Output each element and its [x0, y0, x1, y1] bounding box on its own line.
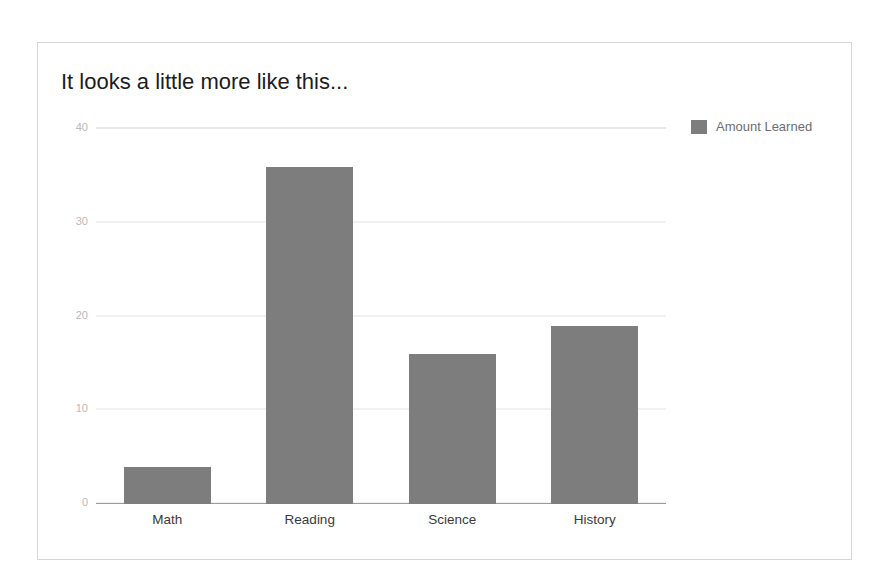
x-axis-tick-label-history: History	[574, 512, 616, 528]
chart-legend: Amount Learned	[691, 120, 812, 134]
x-axis-tick-label-reading: Reading	[285, 512, 335, 528]
bar-math[interactable]	[124, 467, 211, 505]
gridline-30: 30	[96, 221, 666, 222]
y-axis-tick-label-30: 30	[76, 216, 88, 227]
x-axis-tick-label-math: Math	[152, 512, 182, 528]
y-axis-tick-label-0: 0	[82, 497, 88, 508]
bar-history[interactable]	[551, 326, 638, 504]
y-axis-tick-label-10: 10	[76, 403, 88, 414]
chart-card: It looks a little more like this... Amou…	[37, 42, 852, 560]
chart-title: It looks a little more like this...	[61, 69, 348, 95]
gridline-20: 20	[96, 315, 666, 316]
legend-color-swatch-amount-learned	[691, 120, 707, 134]
x-axis-tick-label-science: Science	[428, 512, 476, 528]
y-axis-tick-label-20: 20	[76, 310, 88, 321]
legend-label-amount-learned: Amount Learned	[716, 120, 812, 134]
gridline-40: 40	[96, 128, 666, 129]
bar-science[interactable]	[409, 354, 496, 504]
y-axis-tick-label-40: 40	[76, 122, 88, 133]
plot-area: 010203040 MathReadingScienceHistory	[96, 129, 666, 504]
bar-reading[interactable]	[266, 167, 353, 505]
